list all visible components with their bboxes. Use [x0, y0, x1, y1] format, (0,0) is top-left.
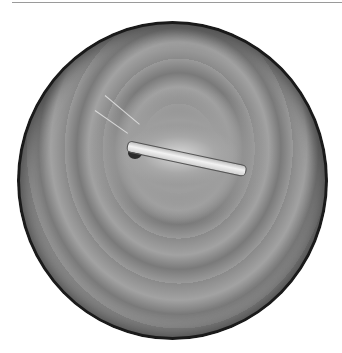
top-rule-divider	[12, 2, 342, 3]
endoscopic-view	[17, 21, 328, 340]
